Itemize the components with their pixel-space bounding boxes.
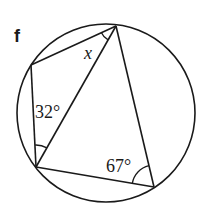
edge-top-left — [31, 26, 116, 65]
angle-label-a32: 32° — [35, 102, 60, 122]
angle-label-a67: 67° — [106, 156, 131, 176]
diagram-svg: x32°67° — [0, 0, 208, 206]
angle-arc-x — [101, 33, 108, 40]
angle-arc-32 — [35, 145, 47, 148]
edge-bottom_left-top — [36, 26, 116, 167]
angle-labels: x32°67° — [35, 43, 131, 176]
edge-bottom_left-bottom_right — [36, 167, 154, 187]
angle-arc-67 — [132, 166, 149, 184]
angle-label-x: x — [83, 43, 92, 63]
cyclic-quadrilateral-figure: f x32°67° — [0, 0, 208, 206]
